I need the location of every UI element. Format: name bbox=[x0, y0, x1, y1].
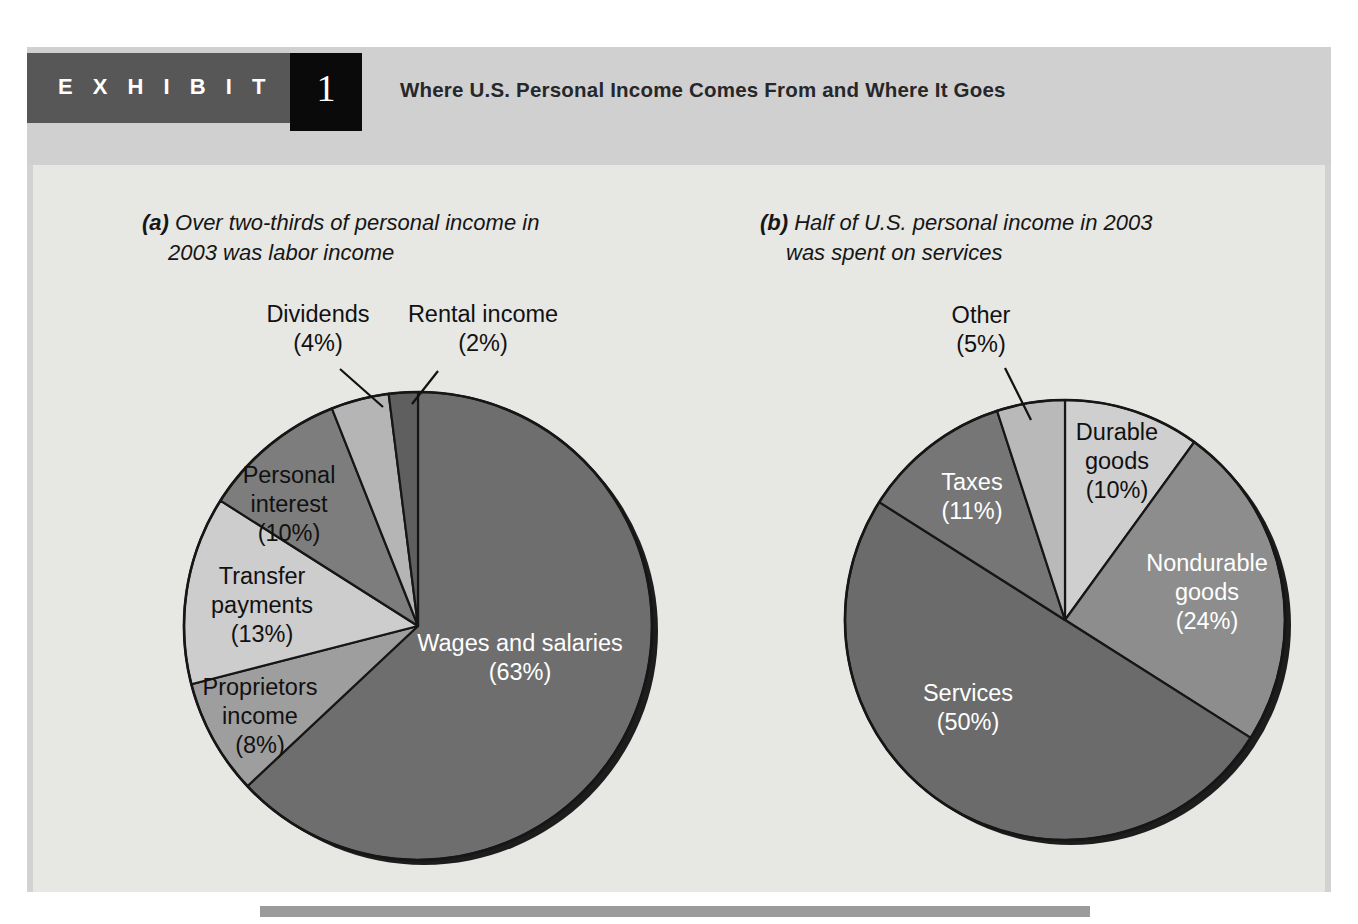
slice-label-taxes: Taxes bbox=[941, 469, 1002, 495]
slice-label-nondurable-goods-l1: Nondurable bbox=[1146, 550, 1268, 576]
slice-value-durable-goods: (10%) bbox=[1086, 477, 1149, 503]
slice-value-taxes: (11%) bbox=[942, 498, 1003, 524]
slice-label-durable-goods-l2: goods bbox=[1085, 448, 1149, 474]
bottom-rule bbox=[260, 906, 1090, 917]
slice-value-services: (50%) bbox=[937, 709, 1000, 735]
slice-value-other: (5%) bbox=[956, 331, 1006, 357]
pie-chart-personal-income-uses: Other (5%) Durable goods (10%) Nondurabl… bbox=[0, 0, 1358, 924]
slice-label-nondurable-goods-l2: goods bbox=[1175, 579, 1239, 605]
slice-label-other: Other bbox=[952, 302, 1011, 328]
slice-label-services: Services bbox=[923, 680, 1013, 706]
slice-label-durable-goods-l1: Durable bbox=[1076, 419, 1158, 445]
slice-value-nondurable-goods: (24%) bbox=[1176, 608, 1239, 634]
